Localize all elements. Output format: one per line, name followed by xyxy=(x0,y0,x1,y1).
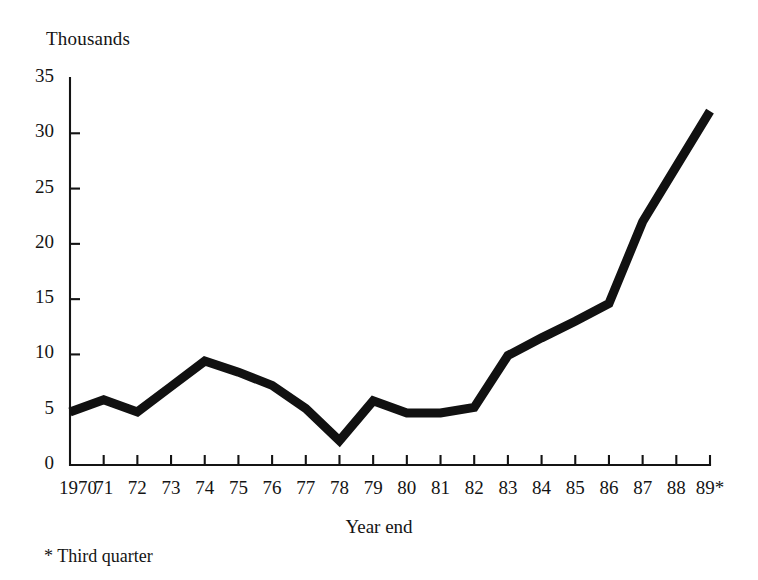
x-axis-title: Year end xyxy=(0,516,758,538)
chart-footnote: * Third quarter xyxy=(44,546,153,567)
x-axis-ticks xyxy=(104,455,710,465)
y-tick-label: 10 xyxy=(8,341,54,363)
y-tick-label: 35 xyxy=(8,65,54,87)
y-tick-label: 25 xyxy=(8,176,54,198)
y-tick-label: 5 xyxy=(8,397,54,419)
y-tick-label: 20 xyxy=(8,231,54,253)
data-series-line xyxy=(70,111,710,441)
x-tick-label: 89* xyxy=(690,477,730,499)
y-axis-ticks xyxy=(70,133,80,409)
y-tick-label: 30 xyxy=(8,120,54,142)
y-tick-label: 0 xyxy=(8,452,54,474)
chart-container: Thousands 05101520253035 197071727374757… xyxy=(0,0,758,580)
y-tick-label: 15 xyxy=(8,286,54,308)
